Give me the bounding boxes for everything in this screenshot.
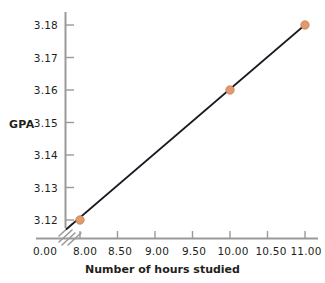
x-tick-label: 9.50 — [182, 245, 206, 257]
y-axis-ticks — [66, 25, 75, 220]
y-tick-label: 3.17 — [18, 52, 58, 64]
x-axis-ticks — [80, 231, 305, 239]
y-tick-label: 3.12 — [18, 214, 58, 226]
y-tick-label: 3.16 — [18, 84, 58, 96]
x-tick-label: 10.50 — [255, 245, 286, 257]
y-tick-label: 3.14 — [18, 149, 58, 161]
y-axis-title: GPA — [9, 118, 35, 131]
data-point — [226, 86, 234, 94]
x-tick-label: 9.00 — [145, 245, 169, 257]
x-tick-label: 0.00 — [33, 245, 57, 257]
data-point — [301, 21, 309, 29]
chart-container: 3.18 3.17 3.16 3.15 3.14 3.13 3.12 0.00 … — [0, 0, 325, 283]
x-tick-label: 8.50 — [108, 245, 132, 257]
x-axis-title: Number of hours studied — [0, 263, 325, 276]
x-tick-label: 11.00 — [290, 245, 321, 257]
chart-plot-area — [0, 0, 325, 283]
x-tick-label: 8.00 — [73, 245, 97, 257]
y-tick-label: 3.13 — [18, 182, 58, 194]
x-tick-label: 10.00 — [217, 245, 248, 257]
y-tick-label: 3.18 — [18, 19, 58, 31]
trend-line — [66, 24, 306, 230]
data-point — [76, 216, 84, 224]
